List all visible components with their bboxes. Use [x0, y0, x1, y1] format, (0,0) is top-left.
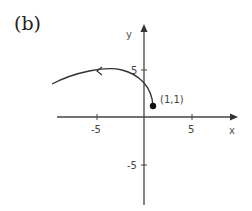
x-axis-label: x	[229, 125, 235, 136]
tick-label-y-neg5: -5	[127, 160, 137, 171]
tick-label-x-5: 5	[188, 124, 194, 135]
tick-label-x-neg5: -5	[91, 124, 101, 135]
direction-arrow-icon	[97, 67, 102, 75]
chart: -5 5 5 -5 x y (1,1)	[0, 0, 252, 211]
point-label: (1,1)	[160, 94, 184, 105]
x-axis-arrow-icon	[230, 114, 238, 121]
y-axis-label: y	[126, 29, 132, 40]
y-axis-arrow-icon	[141, 24, 148, 32]
curve	[52, 69, 153, 106]
end-point	[150, 103, 156, 109]
